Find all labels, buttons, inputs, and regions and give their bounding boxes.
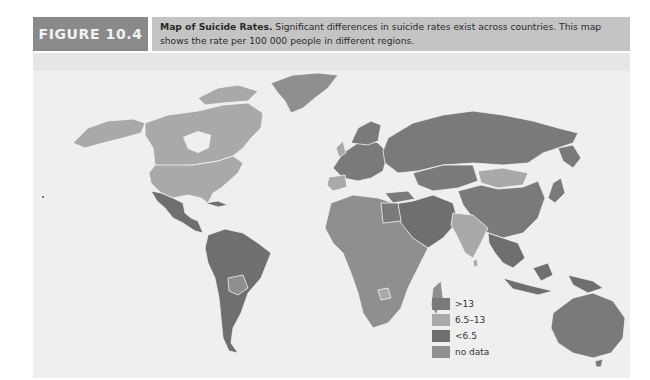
figure-caption: Map of Suicide Rates. Significant differ… (152, 17, 630, 51)
legend-swatch-no-data (432, 346, 450, 358)
caption-title: Map of Suicide Rates. (160, 21, 272, 32)
region-mongolia (478, 168, 528, 188)
region-australia (551, 293, 625, 358)
legend-swatch-gt13 (432, 298, 450, 310)
legend-label-no-data: no data (455, 347, 489, 357)
legend-label-gt13: >13 (455, 299, 474, 309)
figure-label: FIGURE 10.4 (33, 17, 148, 51)
world-map-svg (33, 53, 630, 378)
legend-swatch-mid (432, 314, 450, 326)
legend-swatch-lt6-5 (432, 330, 450, 342)
map-legend: >13 6.5–13 <6.5 no data (432, 296, 489, 360)
region-southeast-asia (488, 233, 525, 268)
legend-item-mid: 6.5–13 (432, 312, 489, 328)
region-russia (383, 111, 578, 173)
region-alaska (73, 119, 145, 148)
legend-label-mid: 6.5–13 (455, 315, 485, 325)
legend-item-lt6-5: <6.5 (432, 328, 489, 344)
region-new-zealand (629, 321, 630, 351)
figure-number: FIGURE 10.4 (39, 26, 143, 42)
legend-item-no-data: no data (432, 344, 489, 360)
legend-label-lt6-5: <6.5 (455, 331, 477, 341)
legend-item-gt13: >13 (432, 296, 489, 312)
region-greenland (271, 73, 338, 113)
world-map: >13 6.5–13 <6.5 no data (33, 53, 630, 378)
